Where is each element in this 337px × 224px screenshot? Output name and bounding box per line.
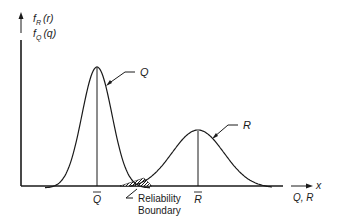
y-axis-arrowhead — [19, 12, 24, 19]
q-mean-label: Q — [93, 193, 101, 205]
curve-q-label: Q — [140, 66, 149, 78]
r-leader-line — [214, 125, 238, 137]
x-axis-label: Q, R — [293, 192, 314, 203]
curve-r — [130, 130, 272, 187]
reliability-diagram: fR(r) fQ(q) Q R Q R Reliability Boundary… — [0, 0, 337, 224]
boundary-label-line1: Reliability — [138, 193, 181, 204]
q-leader-arrowhead — [106, 80, 112, 86]
r-mean-label: R — [194, 193, 202, 205]
q-leader-line — [108, 72, 135, 84]
boundary-label-line2: Boundary — [138, 205, 181, 216]
y-label-fq: fQ(q) — [33, 27, 56, 42]
curve-r-label: R — [243, 119, 251, 131]
boundary-leader-line — [126, 189, 137, 198]
x-axis-arrow-label: x — [315, 179, 322, 191]
x-axis-arrowhead — [306, 184, 313, 189]
y-label-fr: fR(r) — [33, 12, 53, 26]
